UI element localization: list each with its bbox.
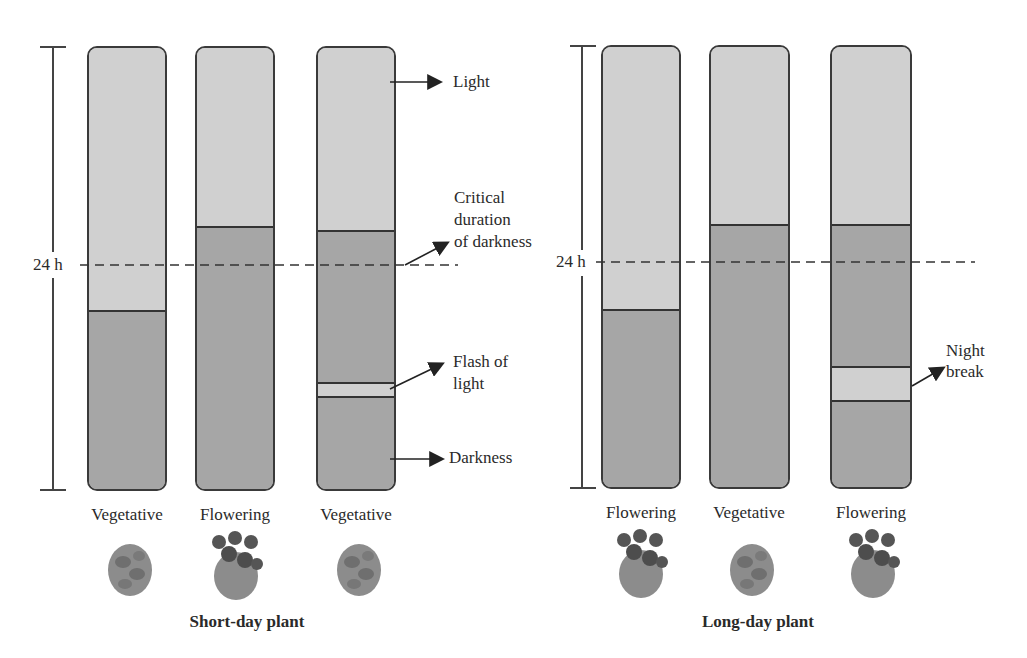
flowering-plant-icon	[205, 530, 267, 602]
critical-arrow	[405, 243, 447, 265]
vegetative-plant-icon	[105, 538, 155, 600]
vegetative-plant-icon	[334, 538, 384, 600]
flowering-plant-icon	[842, 528, 904, 600]
flash-arrow	[390, 364, 442, 389]
night-break-arrow	[912, 368, 943, 386]
vegetative-plant-icon	[727, 538, 777, 600]
flowering-plant-icon	[610, 528, 672, 600]
